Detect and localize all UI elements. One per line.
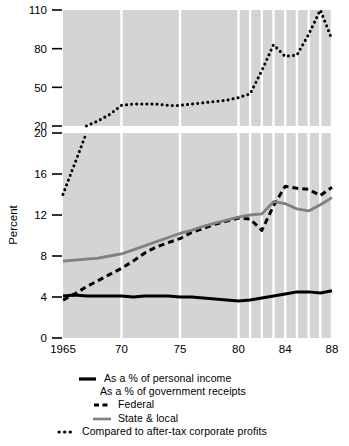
x-tick-label-88: 88 [326, 343, 339, 355]
legend-label-corporate-profits: Compared to after-tax corporate profits [82, 425, 267, 438]
legend-item-personal-income: As a % of personal income [0, 372, 349, 385]
line-dotted-black-icon [56, 425, 78, 438]
lower-y-4-tick-label: 4 [41, 291, 48, 303]
line-dashed-black-icon [92, 398, 114, 411]
y-axis-label: Percent [7, 204, 19, 244]
x-tick-label-84: 84 [279, 343, 292, 355]
legend-label-personal-income: As a % of personal income [104, 372, 231, 385]
lower-plot-background [63, 133, 332, 338]
x-tick-label-1965: 1965 [50, 343, 76, 355]
legend-item-state-local: State & local [0, 412, 349, 425]
x-tick-label-80: 80 [232, 343, 245, 355]
upper-y-110-tick-label: 110 [29, 4, 47, 16]
upper-panel [63, 10, 332, 126]
lower-y-0-tick-label: 0 [41, 332, 47, 344]
lower-y-16-tick-label: 16 [34, 168, 47, 180]
legend-item-corporate-profits: Compared to after-tax corporate profits [0, 425, 349, 438]
legend-label-state-local: State & local [118, 412, 178, 425]
lower-panel [63, 133, 332, 338]
upper-y-80-tick-label: 80 [34, 43, 47, 55]
line-solid-black-icon [78, 372, 100, 385]
upper-plot-background [63, 10, 332, 126]
legend-label-government-receipts: As a % of government receipts [100, 385, 246, 398]
chart-figure: 110805020 201612840 19657075808488 Perce… [0, 0, 349, 446]
legend-label-federal: Federal [118, 398, 154, 411]
legend-item-federal: Federal [0, 398, 349, 411]
x-tick-label-75: 75 [174, 343, 187, 355]
x-tick-label-70: 70 [115, 343, 128, 355]
upper-y-50-tick-label: 50 [34, 82, 47, 94]
chart-legend: As a % of personal income As a % of gove… [0, 372, 349, 438]
legend-item-government-receipts: As a % of government receipts [0, 385, 349, 398]
lower-y-12-tick-label: 12 [34, 209, 47, 221]
line-solid-gray-icon [92, 412, 114, 425]
lower-y-20-tick-label: 20 [34, 127, 47, 139]
lower-y-8-tick-label: 8 [41, 250, 47, 262]
